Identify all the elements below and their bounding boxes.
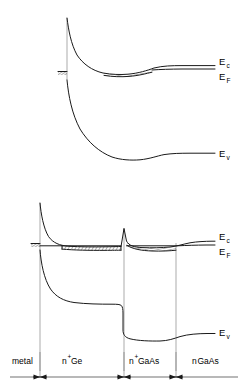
label-Ev-top: E v <box>219 148 231 161</box>
svg-text:E: E <box>219 71 225 82</box>
EF-sub-top: F <box>227 77 231 84</box>
Ec-base-top: E <box>219 56 225 67</box>
Ev-base-bottom: E <box>219 327 225 338</box>
svg-text:E: E <box>219 148 225 159</box>
svg-text:v: v <box>227 333 231 340</box>
region-label-metal: metal <box>12 356 33 366</box>
valence-band-curve-bottom <box>40 250 215 341</box>
svg-text:E: E <box>219 56 225 67</box>
metal-fermi-hatch-marker-top <box>58 72 67 76</box>
svg-text:n: n <box>129 356 134 366</box>
EF-base-top: E <box>219 71 225 82</box>
label-Ec-top: E c <box>219 56 231 69</box>
svg-text:F: F <box>227 252 231 259</box>
label-EF-top: E F <box>219 71 231 84</box>
svg-text:GaAs: GaAs <box>138 356 159 366</box>
region-ngaas2-tail: GaAs <box>198 356 219 366</box>
Ec-sub-bottom: c <box>227 237 231 244</box>
Ec-sub-top: c <box>227 62 231 69</box>
svg-text:n: n <box>192 356 197 366</box>
EF-base-bottom: E <box>219 246 225 257</box>
upper-band-diagram: E c E F E v <box>58 18 231 161</box>
region-ngaas2-base: n <box>192 356 197 366</box>
region-metal-text: metal <box>12 356 33 366</box>
conduction-band-curve-top <box>67 18 215 75</box>
region-ngaas-base: n <box>129 356 134 366</box>
Ec-base-bottom: E <box>219 231 225 242</box>
svg-text:metal: metal <box>12 356 33 366</box>
Ev-sub-top: v <box>227 154 231 161</box>
EF-sub-bottom: F <box>227 252 231 259</box>
svg-text:Ge: Ge <box>71 356 83 366</box>
svg-text:c: c <box>227 237 231 244</box>
region-nge-base: n <box>62 356 67 366</box>
label-Ec-bottom: E c <box>219 231 231 244</box>
Ev-base-top: E <box>219 148 225 159</box>
svg-text:n: n <box>62 356 67 366</box>
svg-text:c: c <box>227 62 231 69</box>
band-diagram-canvas: E c E F E v <box>0 0 247 391</box>
label-Ev-bottom: E v <box>219 327 231 340</box>
lower-band-diagram: E c E F E v <box>31 203 231 377</box>
band-diagram-figure: E c E F E v <box>0 0 247 391</box>
region-label-n-gaas: n GaAs <box>192 356 219 366</box>
metal-fermi-hatch-marker-bottom <box>31 244 40 248</box>
svg-text:v: v <box>227 154 231 161</box>
region-label-n-plus-gaas: n + GaAs <box>129 353 159 366</box>
label-EF-bottom: E F <box>219 246 231 259</box>
region-ngaas-tail: GaAs <box>138 356 159 366</box>
region-nge-tail: Ge <box>71 356 83 366</box>
svg-text:E: E <box>219 246 225 257</box>
svg-text:E: E <box>219 327 225 338</box>
fermi-level-line-top <box>152 69 215 70</box>
valence-band-curve-top <box>67 80 215 160</box>
svg-text:F: F <box>227 77 231 84</box>
region-label-n-plus-ge: n + Ge <box>62 353 83 366</box>
svg-text:E: E <box>219 231 225 242</box>
Ev-sub-bottom: v <box>227 333 231 340</box>
svg-text:GaAs: GaAs <box>198 356 219 366</box>
conduction-band-curve-bottom <box>40 203 215 248</box>
